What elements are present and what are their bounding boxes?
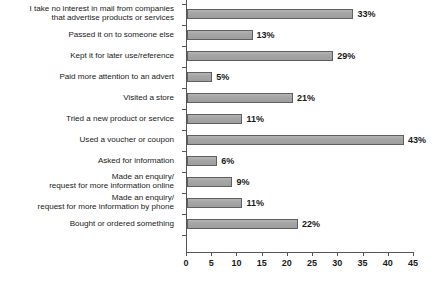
bar-value-label: 33%: [357, 9, 375, 19]
category-label: Passed it on to someone else: [0, 30, 174, 40]
y-axis-tick: [182, 46, 186, 47]
category-label: Visited a store: [0, 93, 174, 103]
category-label-line: Made an enquiry/: [0, 172, 174, 182]
x-axis-tick: [388, 252, 389, 256]
bar: [187, 114, 242, 124]
category-label: Asked for information: [0, 156, 174, 166]
x-axis-tick: [312, 252, 313, 256]
bar-chart: I take no interest in mail from companie…: [0, 0, 435, 282]
category-label: Made an enquiry/request for more informa…: [0, 193, 174, 212]
bar-value-label: 9%: [236, 177, 249, 187]
x-axis-tick: [287, 252, 288, 256]
category-label-line: I take no interest in mail from companie…: [0, 4, 174, 14]
category-label-line: request for more information online: [0, 181, 174, 191]
y-axis-tick: [182, 172, 186, 173]
bar: [187, 72, 212, 82]
y-axis-tick: [182, 25, 186, 26]
bar-value-label: 43%: [408, 135, 426, 145]
y-axis-tick: [182, 193, 186, 194]
category-label-line: Visited a store: [0, 93, 174, 103]
x-axis-tick-label: 5: [209, 258, 214, 268]
y-axis-tick: [182, 67, 186, 68]
x-axis-tick: [186, 252, 187, 256]
bar-value-label: 29%: [337, 51, 355, 61]
bar: [187, 156, 217, 166]
bar: [187, 177, 232, 187]
x-axis-tick-label: 30: [332, 258, 342, 268]
y-axis-tick: [182, 88, 186, 89]
x-axis-tick-label: 20: [282, 258, 292, 268]
bar-value-label: 21%: [297, 93, 315, 103]
category-label-line: Paid more attention to an advert: [0, 72, 174, 82]
y-axis-tick: [182, 214, 186, 215]
x-axis-tick-label: 25: [307, 258, 317, 268]
x-axis-tick: [337, 252, 338, 256]
x-axis-tick-label: 40: [383, 258, 393, 268]
bar-value-label: 13%: [257, 30, 275, 40]
category-label: Made an enquiry/request for more informa…: [0, 172, 174, 191]
y-axis-tick: [182, 235, 186, 236]
x-axis-tick-label: 45: [408, 258, 418, 268]
y-axis-tick: [182, 4, 186, 5]
category-label: I take no interest in mail from companie…: [0, 4, 174, 23]
x-axis-tick: [236, 252, 237, 256]
bar: [187, 135, 404, 145]
category-label-line: Passed it on to someone else: [0, 30, 174, 40]
category-label-line: Made an enquiry/: [0, 193, 174, 203]
category-label-line: Used a voucher or coupon: [0, 135, 174, 145]
bar: [187, 9, 353, 19]
bar-value-label: 22%: [302, 219, 320, 229]
bar: [187, 93, 293, 103]
bar-value-label: 11%: [246, 198, 264, 208]
x-axis-tick-label: 15: [257, 258, 267, 268]
bar: [187, 198, 242, 208]
x-axis-tick-label: 35: [358, 258, 368, 268]
category-label-line: Tried a new product or service: [0, 114, 174, 124]
y-axis-tick: [182, 151, 186, 152]
category-label: Bought or ordered something: [0, 219, 174, 229]
category-axis-labels: I take no interest in mail from companie…: [0, 0, 178, 252]
x-axis-tick-label: 10: [231, 258, 241, 268]
y-axis-tick: [182, 109, 186, 110]
category-label-line: Kept it for later use/reference: [0, 51, 174, 61]
y-axis-tick: [182, 130, 186, 131]
category-label-line: Bought or ordered something: [0, 219, 174, 229]
category-label-line: that advertise products or services: [0, 13, 174, 23]
category-label-line: request for more information by phone: [0, 202, 174, 212]
category-label: Paid more attention to an advert: [0, 72, 174, 82]
x-axis-tick-label: 0: [183, 258, 188, 268]
category-label: Tried a new product or service: [0, 114, 174, 124]
bar-value-label: 11%: [246, 114, 264, 124]
bar-value-label: 6%: [221, 156, 234, 166]
x-axis-tick: [262, 252, 263, 256]
category-label: Kept it for later use/reference: [0, 51, 174, 61]
category-label: Used a voucher or coupon: [0, 135, 174, 145]
x-axis-tick: [413, 252, 414, 256]
x-axis-tick: [363, 252, 364, 256]
bar: [187, 51, 333, 61]
x-axis-line: [186, 252, 414, 253]
category-label-line: Asked for information: [0, 156, 174, 166]
x-axis-tick: [211, 252, 212, 256]
plot-area: 33%13%29%5%21%11%43%6%9%11%22%: [186, 0, 413, 252]
bar: [187, 30, 253, 40]
bar-value-label: 5%: [216, 72, 229, 82]
bar: [187, 219, 298, 229]
